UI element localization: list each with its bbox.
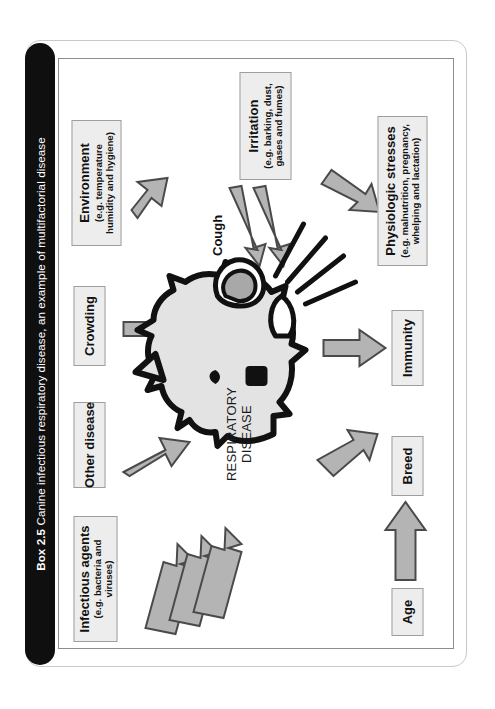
centre-outcome-label: RESPIRATORY DISEASE [224,374,255,494]
factor-title: Age [400,599,415,624]
diagram-canvas: Infectious agents (e.g. bacteria and vir… [60,60,453,648]
factor-title: Crowding [82,296,97,356]
centre-label-line-2: DISEASE [239,374,254,494]
dog-muzzle [216,259,264,305]
factor-box-other-disease[interactable]: Other disease [74,402,106,488]
cough-label: Cough [210,214,225,255]
figure-title: Box 2.5 Canine infectious respiratory di… [34,137,47,571]
factor-title: Infectious agents [77,525,92,632]
factor-box-immunity[interactable]: Immunity [392,310,424,386]
dog-ear [136,354,164,380]
factor-subtitle: (e.g. temperature humidity and hygiene) [94,127,115,239]
factor-box-infectious-agents[interactable]: Infectious agents (e.g. bacteria and vir… [74,516,118,642]
factor-title: Environment [78,143,93,222]
factor-box-breed[interactable]: Breed [392,436,424,496]
factor-box-irritation[interactable]: Irritation (e.g. barking, dust, gases an… [240,72,292,180]
dog-jaw [271,296,294,336]
figure-page: Box 2.5 Canine infectious respiratory di… [0,0,495,709]
cough-lines [276,224,356,304]
factor-title: Breed [400,447,415,484]
factor-box-crowding[interactable]: Crowding [74,286,106,366]
figure-box-number: Box 2.5 [34,529,47,571]
diagram-plate: Infectious agents (e.g. bacteria and vir… [58,58,454,649]
figure-title-text: Canine infectious respiratory disease, a… [34,137,47,525]
factor-title: Other disease [82,402,97,488]
factor-box-age[interactable]: Age [392,588,424,636]
factor-box-physiologic-stresses[interactable]: Physiologic stresses (e.g. malnutrition,… [378,116,428,266]
factor-title: Irritation [247,99,262,152]
figure-title-bar: Box 2.5 Canine infectious respiratory di… [25,43,55,665]
factor-subtitle: (e.g. malnutrition, pregnancy, whelping … [400,123,421,259]
factor-box-environment[interactable]: Environment (e.g. temperature humidity a… [72,120,122,246]
factor-title: Immunity [400,319,415,377]
factor-title: Physiologic stresses [384,126,399,255]
centre-label-line-1: RESPIRATORY [224,374,239,494]
factor-subtitle: (e.g. barking, dust, gases and fumes) [263,79,284,173]
factor-subtitle: (e.g. bacteria and viruses) [93,523,114,635]
